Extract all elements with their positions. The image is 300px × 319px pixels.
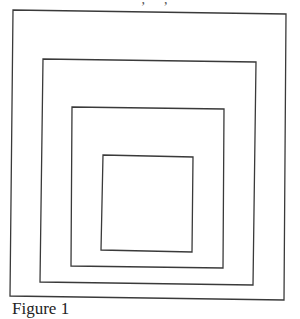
square-third [71,107,224,268]
square-inner [101,155,193,252]
figure-caption: Figure 1 [12,299,69,319]
square-outer [10,10,286,300]
